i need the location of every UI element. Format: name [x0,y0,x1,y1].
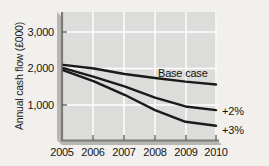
chart-container: Annual cash flow (£000) 3,000 2,000 1,00… [0,0,269,166]
chart-svg [0,0,269,166]
x-tick-label-2005: 2005 [45,146,79,158]
x-tick-label-2007: 2007 [107,146,141,158]
x-tick-label-2009: 2009 [169,146,203,158]
series-label-base-case: Base case [158,67,208,79]
x-tick-label-2010: 2010 [199,146,233,158]
series-label-plus-2-percent: +2% [222,105,244,117]
x-tick-label-2006: 2006 [76,146,110,158]
series-label-plus-3-percent: +3% [222,124,244,136]
x-tick-label-2008: 2008 [138,146,172,158]
